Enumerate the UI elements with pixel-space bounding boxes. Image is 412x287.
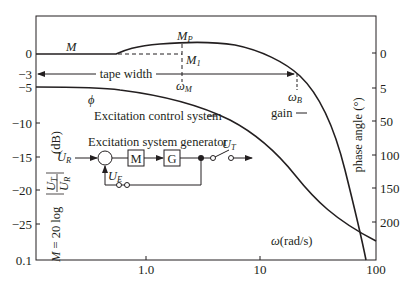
right-tick-1: 5 — [380, 81, 387, 96]
output-switch — [215, 150, 229, 157]
right-axis-labels: 0 5 50 100 150 200 — [380, 46, 400, 230]
block-m-label: M — [130, 152, 141, 166]
x-tick-2: 100 — [366, 262, 386, 277]
svg-text:M = 20 log: M = 20 log — [49, 206, 63, 263]
left-axis-labels: 0 −3 −5 −10 −15 −20 −25 0.1 — [12, 46, 32, 268]
tape-width-label: tape width — [100, 67, 153, 81]
right-tick-2: 50 — [380, 114, 393, 129]
ur-denominator: UR — [57, 176, 72, 191]
peak-label: MP — [176, 29, 193, 44]
feedback-contact-1 — [125, 183, 130, 188]
control-system-label: Excitation control system — [94, 109, 222, 123]
left-axis-ticks — [36, 123, 40, 224]
left-tick-2: −5 — [18, 80, 32, 95]
x-axis-title: ω(rad/s) — [271, 234, 312, 248]
left-tick-6: −25 — [12, 217, 32, 232]
x-axis-ticks — [146, 256, 260, 260]
switch-contact-1 — [211, 156, 216, 161]
right-tick-3: 100 — [380, 148, 400, 163]
summing-junction — [98, 151, 112, 165]
left-tick-7: 0.1 — [16, 253, 32, 268]
block-diagram-title: Excitation system generator — [88, 135, 228, 149]
bode-diagram: 0 −3 −5 −10 −15 −20 −25 0.1 0 5 50 100 1… — [0, 0, 412, 287]
omega-b-label: ωB — [288, 90, 302, 105]
magnitude-label: M — [65, 40, 77, 54]
x-axis-labels: 1.0 10 100 — [138, 262, 386, 277]
magnitude-curve — [36, 42, 366, 260]
block-g-label: G — [167, 152, 176, 166]
left-tick-3: −10 — [12, 116, 32, 131]
block-diagram: Excitation system generator UR M G UT UE — [57, 135, 252, 188]
input-label: UR — [57, 150, 72, 165]
left-axis-formula-m: M — [49, 251, 63, 263]
omega-m-label: ωM — [176, 79, 193, 94]
right-axis-title: phase angle (°) — [351, 97, 365, 172]
left-tick-5: −20 — [12, 183, 32, 198]
output-label: UT — [222, 137, 237, 152]
m1-label: M1 — [185, 53, 201, 68]
right-tick-0: 0 — [380, 46, 387, 61]
right-axis-ticks — [372, 53, 376, 222]
x-tick-1: 10 — [254, 262, 267, 277]
right-tick-4: 150 — [380, 181, 400, 196]
feedback-label: UE — [108, 169, 123, 184]
gain-label: gain — [271, 106, 293, 120]
left-tick-0: 0 — [26, 46, 33, 61]
phase-label: ϕ — [88, 93, 95, 107]
left-tick-4: −15 — [12, 150, 32, 165]
right-tick-5: 200 — [380, 215, 400, 230]
switch-contact-2 — [229, 156, 234, 161]
x-tick-0: 1.0 — [138, 262, 154, 277]
